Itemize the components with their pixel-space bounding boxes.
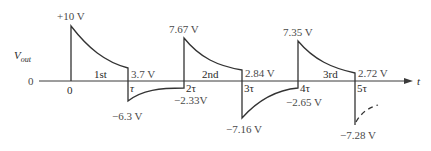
- label-peak-2: 7.67 V: [169, 23, 199, 35]
- trough-3-continuation: [356, 105, 378, 122]
- label-end-trough-1: −2.33V: [174, 94, 207, 106]
- label-peak-3: 7.35 V: [283, 26, 313, 38]
- label-end-trough-2: −2.65 V: [286, 96, 322, 108]
- axis-arrow-icon: [404, 78, 413, 84]
- label-end-2: 2.84 V: [245, 67, 275, 79]
- tick-3tau: 3τ: [244, 82, 255, 94]
- zero-label: 0: [28, 75, 34, 87]
- rc-differentiator-waveform: Vout 0 t 0 τ 2τ 3τ 4τ 5τ 1st 2nd 3rd +10…: [0, 0, 431, 151]
- pulse-label-3rd: 3rd: [323, 68, 338, 80]
- label-end-3: 2.72 V: [358, 67, 388, 79]
- tick-2tau: 2τ: [186, 82, 197, 94]
- y-axis-label: Vout: [14, 49, 32, 64]
- tick-4tau: 4τ: [300, 82, 311, 94]
- label-end-1: 3.7 V: [131, 68, 155, 80]
- x-axis-label: t: [417, 75, 421, 87]
- pulse-label-1st: 1st: [94, 68, 107, 80]
- label-trough-3: −7.28 V: [340, 129, 376, 141]
- label-trough-1: −6.3 V: [112, 110, 143, 122]
- tick-tau: τ: [130, 82, 135, 94]
- label-peak-1: +10 V: [57, 10, 85, 22]
- label-trough-2: −7.16 V: [226, 123, 262, 135]
- tick-0: 0: [67, 84, 73, 96]
- tick-5tau: 5τ: [357, 82, 368, 94]
- pulse-label-2nd: 2nd: [202, 68, 219, 80]
